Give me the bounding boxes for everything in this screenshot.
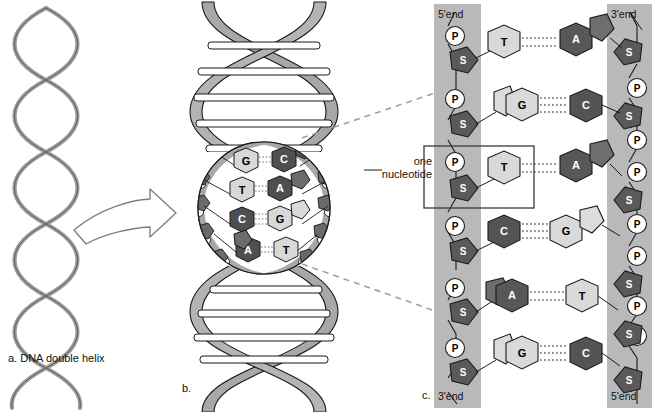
- svg-text:S: S: [626, 195, 633, 206]
- panel-b-base-left-2: C: [238, 213, 246, 225]
- panel-b-base-right-1: A: [276, 182, 284, 194]
- svg-text:S: S: [626, 375, 633, 386]
- row-4-left-base: A: [508, 289, 516, 301]
- svg-text:S: S: [460, 367, 467, 378]
- panel-b-base-right-2: G: [276, 213, 285, 225]
- end-label-bottom-left: 3'end: [438, 390, 463, 402]
- ribbon-helix-graphic: G C T A C G: [168, 0, 358, 412]
- end-label-top-left: 5'end: [438, 8, 463, 20]
- panel-b-base-right-0: C: [280, 153, 288, 165]
- svg-text:S: S: [626, 279, 633, 290]
- panel-c-caption: c.: [422, 389, 431, 401]
- svg-text:S: S: [460, 246, 467, 257]
- svg-text:P: P: [452, 157, 459, 168]
- panel-b-base-right-3: T: [283, 244, 290, 256]
- row-3-right-base: G: [562, 225, 571, 237]
- row-2-left-base: T: [501, 161, 508, 173]
- panel-b-base-left-1: T: [239, 184, 246, 196]
- svg-text:P: P: [452, 343, 459, 354]
- end-label-bottom-right: 5'end: [611, 390, 636, 402]
- svg-text:S: S: [626, 329, 633, 340]
- svg-text:P: P: [634, 251, 641, 262]
- svg-text:P: P: [634, 301, 641, 312]
- base-pair-row-4: A T: [476, 278, 618, 312]
- svg-text:S: S: [460, 183, 467, 194]
- row-1-left-base: G: [518, 99, 527, 111]
- base-pair-row-5: G C: [476, 334, 620, 372]
- row-3-left-base: C: [500, 225, 508, 237]
- base-pair-row-0: T A: [476, 14, 622, 58]
- row-1-right-base: C: [582, 99, 590, 111]
- transition-arrow: [70, 186, 180, 246]
- panel-a-caption: a. DNA double helix: [8, 352, 105, 364]
- svg-text:P: P: [452, 221, 459, 232]
- svg-text:S: S: [626, 111, 633, 122]
- svg-text:P: P: [452, 283, 459, 294]
- row-2-right-base: A: [572, 159, 580, 171]
- base-pair-row-3: C G: [476, 206, 620, 251]
- base-pair-row-2: T A: [476, 140, 622, 188]
- svg-text:S: S: [460, 119, 467, 130]
- row-0-left-base: T: [501, 36, 508, 48]
- svg-text:P: P: [452, 94, 459, 105]
- phosphate-symbol: P: [452, 31, 459, 42]
- end-label-top-right: 3'end: [611, 8, 636, 20]
- svg-text:P: P: [634, 219, 641, 230]
- svg-text:S: S: [460, 307, 467, 318]
- row-0-right-base: A: [572, 33, 580, 45]
- panel-b-caption: b.: [182, 382, 191, 394]
- row-4-right-base: T: [579, 290, 586, 302]
- panel-b-base-left-0: G: [242, 155, 251, 167]
- base-pair-row-1: G C: [476, 86, 620, 124]
- svg-text:S: S: [626, 47, 633, 58]
- sugar-symbol: S: [460, 55, 467, 66]
- svg-text:P: P: [634, 83, 641, 94]
- nucleotide-ladder-graphic: P P P P P P S S S S S S: [358, 0, 660, 412]
- row-5-left-base: G: [518, 347, 527, 359]
- panel-b-helix-with-bases: G C T A C G: [168, 0, 358, 412]
- svg-text:P: P: [634, 135, 641, 146]
- svg-text:P: P: [634, 167, 641, 178]
- panel-c-nucleotide-detail: P P P P P P S S S S S S: [358, 0, 660, 412]
- row-5-right-base: C: [582, 347, 590, 359]
